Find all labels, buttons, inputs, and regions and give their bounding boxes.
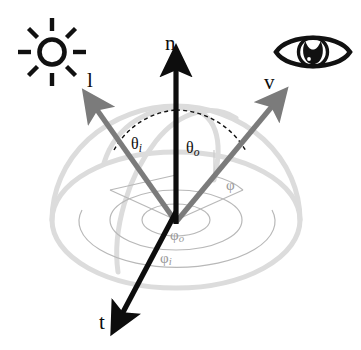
- theta-incident-symbol: θ: [131, 135, 139, 152]
- theta-outgoing-subscript: o: [194, 146, 200, 158]
- phi-outgoing-symbol: φ: [170, 227, 179, 243]
- view-vector: [176, 104, 274, 222]
- tangent-vector-label: t: [99, 312, 105, 333]
- view-vector-label: v: [264, 72, 275, 93]
- phi-outgoing-label: φo: [170, 228, 184, 244]
- theta-incident-label: θi: [131, 136, 142, 154]
- sun-ray-se: [67, 67, 76, 76]
- phi-outgoing-subscript: o: [179, 232, 184, 244]
- eye-icon: [276, 38, 350, 67]
- light-vector-label: l: [87, 70, 93, 91]
- phi-incident-label: φi: [160, 251, 172, 267]
- phi-relative-label: φ: [226, 178, 235, 194]
- brdf-diagram: n l v t θi θo φ φo φi: [0, 0, 361, 350]
- eye-pupil: [303, 42, 323, 65]
- phi-incident-subscript: i: [169, 255, 172, 267]
- diagram-canvas: [0, 0, 361, 350]
- theta-incident-subscript: i: [139, 142, 142, 154]
- sun-disc: [40, 40, 65, 65]
- sun-icon: [18, 18, 86, 86]
- phi-relative-symbol: φ: [226, 177, 235, 193]
- theta-outgoing-symbol: θ: [186, 139, 194, 156]
- eye-highlight: [307, 57, 311, 61]
- normal-vector-label: n: [165, 33, 176, 54]
- phi-incident-symbol: φ: [160, 250, 169, 266]
- sun-ray-nw: [29, 29, 38, 38]
- sun-ray-ne: [67, 29, 76, 38]
- theta-outgoing-label: θo: [186, 140, 199, 158]
- sun-ray-sw: [29, 67, 38, 76]
